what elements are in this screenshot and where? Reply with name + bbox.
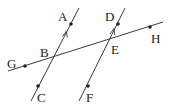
label-H: H xyxy=(151,31,160,46)
label-F: F xyxy=(86,90,93,105)
point-A xyxy=(69,22,73,26)
point-H xyxy=(148,25,152,29)
line-GH xyxy=(8,22,163,71)
point-F xyxy=(86,84,90,88)
point-C xyxy=(36,84,40,88)
label-A: A xyxy=(58,9,68,24)
label-B: B xyxy=(40,45,49,60)
label-C: C xyxy=(37,90,46,105)
label-G: G xyxy=(7,56,16,71)
label-E: E xyxy=(111,42,119,57)
point-D xyxy=(116,22,120,26)
parallel-lines-diagram: A B C D E F G H xyxy=(0,0,176,107)
label-D: D xyxy=(105,9,114,24)
parallel-arrow-icon xyxy=(63,31,68,38)
point-G xyxy=(23,64,27,68)
